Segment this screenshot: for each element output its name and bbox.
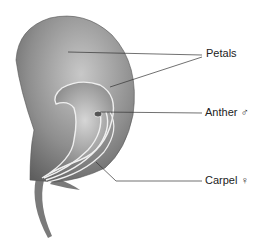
stem (35, 178, 53, 238)
label-anther: Anther ♂ (205, 106, 249, 118)
flower-diagram (0, 0, 258, 247)
label-carpel: Carpel ♀ (205, 174, 249, 186)
label-petals: Petals (206, 47, 237, 59)
carpel-leader (96, 162, 202, 181)
